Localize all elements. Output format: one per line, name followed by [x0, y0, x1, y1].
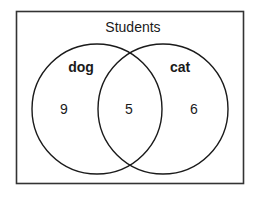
set-circle-dog: [32, 44, 162, 174]
intersection-count: 5: [125, 101, 133, 117]
set-label-cat: cat: [170, 59, 191, 75]
set-circle-cat: [98, 44, 228, 174]
universe-rectangle: [17, 12, 244, 184]
universe-label: Students: [105, 19, 160, 35]
dog-only-count: 9: [60, 101, 68, 117]
cat-only-count: 6: [190, 101, 198, 117]
venn-diagram: Students dog cat 9 5 6: [0, 0, 256, 198]
set-label-dog: dog: [68, 59, 94, 75]
